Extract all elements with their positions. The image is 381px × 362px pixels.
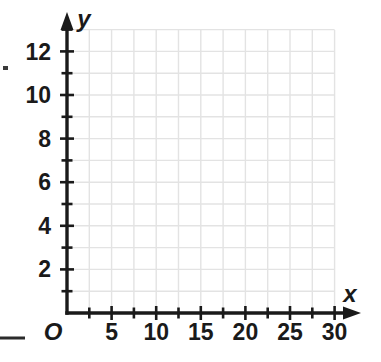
coordinate-grid-figure: 5 10 15 20 25 30 2 4 6 8 10 12 O x y [0, 0, 381, 362]
x-tick-label: 10 [143, 319, 169, 345]
x-tick-label: 20 [233, 319, 259, 345]
x-tick-label: 15 [188, 319, 214, 345]
y-tick-label: 12 [25, 39, 51, 65]
y-tick-label: 4 [38, 213, 51, 239]
grid-lines [67, 30, 335, 313]
x-tick-label: 30 [322, 319, 348, 345]
x-axis-tick-labels: 5 10 15 20 25 30 [105, 319, 347, 345]
y-axis-tick-labels: 2 4 6 8 10 12 [25, 39, 51, 283]
left-margin-rule [0, 337, 25, 340]
x-tick-label: 25 [277, 319, 303, 345]
y-tick-label: 2 [38, 256, 51, 282]
x-tick-label: 5 [105, 319, 118, 345]
left-margin-speck [3, 66, 8, 70]
origin-label: O [44, 318, 63, 345]
y-axis-label: y [76, 5, 92, 32]
x-axis-label: x [341, 280, 358, 307]
y-tick-label: 6 [38, 169, 51, 195]
page-margin-artifacts [0, 66, 25, 340]
y-tick-label: 8 [38, 126, 51, 152]
coordinate-plane-svg: 5 10 15 20 25 30 2 4 6 8 10 12 O x y [0, 0, 381, 362]
y-tick-label: 10 [25, 82, 51, 108]
y-axis-arrowhead [61, 12, 74, 30]
x-axis-arrowhead [343, 307, 361, 320]
